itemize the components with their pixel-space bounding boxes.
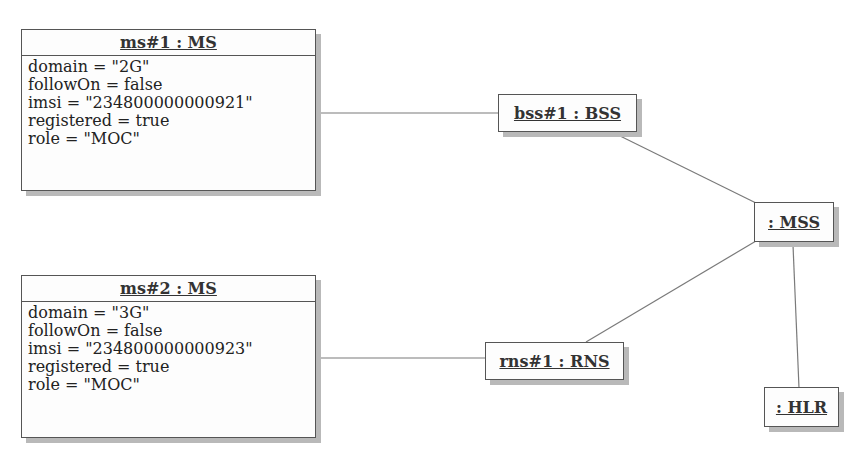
object-title: : HLR: [776, 398, 827, 417]
object-title: ms#1 : MS: [22, 30, 315, 56]
object-title: : MSS: [768, 213, 820, 232]
object-ms1[interactable]: ms#1 : MS domain = "2G" followOn = false…: [21, 29, 316, 191]
object-mss[interactable]: : MSS: [754, 202, 834, 242]
link-rns1-mss: [586, 241, 756, 342]
object-title: ms#2 : MS: [22, 276, 315, 302]
attribute-followon: followOn = false: [28, 322, 315, 340]
object-rns1[interactable]: rns#1 : RNS: [485, 342, 624, 380]
attribute-role: role = "MOC": [28, 130, 315, 148]
attribute-registered: registered = true: [28, 112, 315, 130]
attribute-imsi: imsi = "234800000000921": [28, 94, 315, 112]
attribute-domain: domain = "2G": [28, 58, 315, 76]
object-bss1[interactable]: bss#1 : BSS: [498, 94, 637, 132]
link-mss-hlr: [793, 245, 799, 388]
object-title: rns#1 : RNS: [499, 352, 609, 371]
attribute-list: domain = "2G" followOn = false imsi = "2…: [22, 56, 315, 148]
object-title: bss#1 : BSS: [514, 104, 621, 123]
object-ms2[interactable]: ms#2 : MS domain = "3G" followOn = false…: [21, 275, 316, 438]
object-hlr[interactable]: : HLR: [764, 387, 839, 427]
attribute-list: domain = "3G" followOn = false imsi = "2…: [22, 302, 315, 394]
attribute-registered: registered = true: [28, 358, 315, 376]
attribute-imsi: imsi = "234800000000923": [28, 340, 315, 358]
attribute-followon: followOn = false: [28, 76, 315, 94]
link-bss1-mss: [612, 132, 756, 203]
attribute-domain: domain = "3G": [28, 304, 315, 322]
attribute-role: role = "MOC": [28, 376, 315, 394]
